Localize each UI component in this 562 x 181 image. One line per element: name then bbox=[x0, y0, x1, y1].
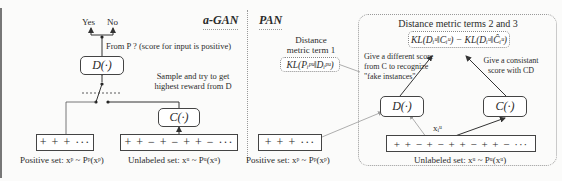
agan-unlabeled-caption: Unlabeled set: xᵘ ~ Pᵘ(xᵘ) bbox=[128, 155, 220, 165]
pan-positive-set-box: + + + ··· bbox=[258, 134, 322, 151]
agan-classifier-box: C(·) bbox=[158, 108, 200, 127]
metric1-line1: Distance bbox=[276, 35, 346, 45]
pan-title: PAN bbox=[259, 13, 282, 30]
pan-unlabeled-set-box: + + − + − + + − + + − ··· bbox=[386, 135, 536, 152]
agan-discriminator-box: D(·) bbox=[80, 56, 124, 75]
metric1-formula: KL(Pᵢᵖᵘ‖Dᵢᵖᵘ) bbox=[280, 57, 340, 72]
pan-discriminator-box: D(·) bbox=[380, 96, 424, 117]
metric23-title: Distance metric terms 2 and 3 bbox=[368, 19, 548, 29]
agan-positive-set-box: + + + ··· bbox=[36, 134, 94, 151]
no-label: No bbox=[107, 17, 118, 27]
yes-label: Yes bbox=[82, 17, 95, 27]
pan-positive-caption: Positive set: xᵖ ~ Pᵖ(xᵖ) bbox=[246, 155, 330, 165]
note-c-line2: score with CD bbox=[476, 66, 546, 76]
sample-note-line1: Sample and try to get bbox=[148, 71, 238, 81]
metric1-label: Distance metric term 1 bbox=[276, 35, 346, 55]
sample-note-line2: highest reward from D bbox=[148, 81, 238, 91]
sample-note: Sample and try to get highest reward fro… bbox=[148, 71, 238, 91]
note-c-line1: Give a consistant bbox=[476, 56, 546, 66]
note-c: Give a consistant score with CD bbox=[476, 56, 546, 76]
pan-unlabeled-caption: Unlabeled set: xᵘ ~ Pᵘ(xᵘ) bbox=[414, 155, 506, 165]
note-d-line2: from C to recognize bbox=[364, 62, 433, 72]
metric1-line2: metric term 1 bbox=[276, 45, 346, 55]
agan-unlabeled-set-box: + + − + − + + − ··· bbox=[120, 134, 238, 151]
sample-label: xᵢᵘ bbox=[433, 123, 442, 133]
note-d-line3: "fake instances" bbox=[364, 72, 433, 82]
metric23-formula: KL(Dᵢᵘ‖Cᵢᵘ) − KL(Dᵢᵘ‖Ĉᵢᵘ) bbox=[408, 31, 510, 48]
from-p-note: From P ? (score for input is positive) bbox=[106, 41, 231, 51]
pan-classifier-box: C(·) bbox=[483, 96, 527, 117]
note-d-line1: Give a different score bbox=[364, 52, 433, 62]
agan-title: a-GAN bbox=[203, 13, 238, 30]
agan-positive-caption: Positive set: xᵖ ~ Pᵖ(xᵖ) bbox=[20, 155, 104, 165]
note-d: Give a different score from C to recogni… bbox=[364, 52, 433, 82]
